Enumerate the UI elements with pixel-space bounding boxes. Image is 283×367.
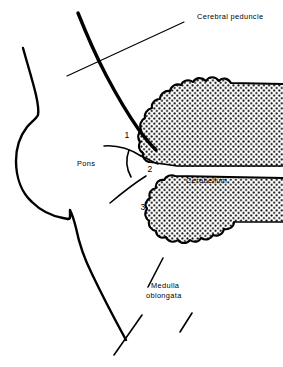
label-callout-1: 1 [125, 130, 130, 140]
label-cerebral-peduncle: Cerebral peduncle [197, 12, 263, 21]
label-pons: Pons [77, 159, 95, 168]
label-medulla-line2: oblongata [146, 291, 182, 300]
label-callout-2: 2 [148, 164, 153, 174]
label-medulla-line1: Medulla [151, 281, 180, 290]
diagram-canvas: Cerebral peduncle Pons Cerebellum Medull… [0, 0, 283, 367]
label-callout-3: 3 [141, 202, 146, 212]
brainstem-diagram: Cerebral peduncle Pons Cerebellum Medull… [0, 0, 283, 367]
label-cerebellum: Cerebellum [186, 176, 227, 185]
